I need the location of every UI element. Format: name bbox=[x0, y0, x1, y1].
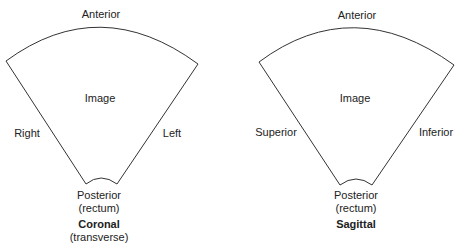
coronal-subtitle: (transverse) bbox=[70, 231, 129, 244]
sagittal-posterior-label: Posterior bbox=[334, 189, 378, 202]
coronal-right-label: Right bbox=[14, 127, 40, 140]
sagittal-image-label: Image bbox=[340, 92, 371, 105]
coronal-posterior-label: Posterior bbox=[77, 189, 121, 202]
sagittal-sector bbox=[259, 28, 454, 185]
sector-shapes bbox=[0, 0, 457, 244]
coronal-anterior-label: Anterior bbox=[82, 8, 121, 21]
coronal-left-label: Left bbox=[163, 127, 181, 140]
coronal-sector bbox=[6, 27, 198, 184]
coronal-image-label: Image bbox=[85, 92, 116, 105]
coronal-title: Coronal bbox=[78, 218, 120, 231]
sagittal-inferior-label: Inferior bbox=[419, 126, 453, 139]
sagittal-title: Sagittal bbox=[336, 218, 376, 231]
coronal-rectum-label: (rectum) bbox=[79, 202, 120, 215]
sagittal-rectum-label: (rectum) bbox=[336, 202, 377, 215]
sagittal-superior-label: Superior bbox=[255, 126, 297, 139]
sagittal-anterior-label: Anterior bbox=[338, 9, 377, 22]
